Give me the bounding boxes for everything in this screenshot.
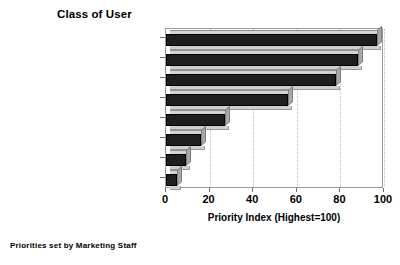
x-tick-label: 0 [145, 193, 185, 205]
bar-front-face [166, 94, 288, 106]
bar-front-face [166, 154, 186, 166]
category-tick [160, 137, 165, 138]
bar-side-face [225, 106, 230, 126]
bar [166, 170, 183, 190]
bar-shadow-face [170, 186, 181, 190]
bar-side-face [177, 166, 182, 186]
bar-front-face [166, 74, 336, 86]
x-tick-mark [209, 188, 210, 192]
bar-front-face [166, 174, 177, 186]
bars-layer [166, 29, 382, 187]
bar-side-face [377, 26, 382, 46]
bar [166, 110, 231, 130]
bar [166, 130, 207, 150]
x-tick-label: 100 [363, 193, 400, 205]
bar-chart: Class of User Customer ServiceNew Custom… [0, 0, 400, 265]
x-tick-mark [383, 188, 384, 192]
x-tick-label: 80 [319, 193, 359, 205]
bar [166, 30, 383, 50]
chart-title: Class of User [57, 8, 132, 20]
x-tick-label: 40 [232, 193, 272, 205]
bar-side-face [186, 146, 191, 166]
x-tick-mark [339, 188, 340, 192]
category-tick [160, 57, 165, 58]
x-tick-mark [296, 188, 297, 192]
bar-side-face [358, 46, 363, 66]
category-tick [160, 117, 165, 118]
bar [166, 50, 364, 70]
bar-side-face [336, 66, 341, 86]
bar-front-face [166, 34, 377, 46]
bar [166, 70, 342, 90]
category-tick [160, 37, 165, 38]
category-tick [160, 77, 165, 78]
category-tick [160, 157, 165, 158]
chart-footnote: Priorities set by Marketing Staff [10, 241, 137, 250]
category-tick [160, 97, 165, 98]
x-axis-title: Priority Index (Highest=100) [165, 212, 383, 223]
bar [166, 90, 294, 110]
bar-front-face [166, 134, 201, 146]
bar-front-face [166, 54, 358, 66]
bar-side-face [288, 86, 293, 106]
x-tick-label: 20 [189, 193, 229, 205]
gridline [384, 29, 385, 187]
x-tick-mark [165, 188, 166, 192]
category-tick [160, 177, 165, 178]
x-tick-mark [252, 188, 253, 192]
x-tick-label: 60 [276, 193, 316, 205]
bar-front-face [166, 114, 225, 126]
plot-area [165, 28, 383, 188]
bar-side-face [201, 126, 206, 146]
